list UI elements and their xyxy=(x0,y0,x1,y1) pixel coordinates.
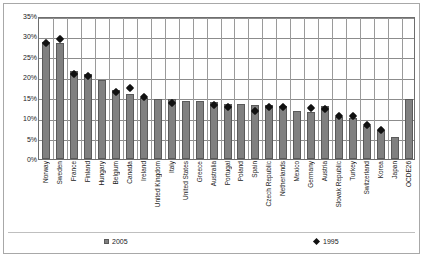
marker-germany xyxy=(307,104,315,112)
y-axis-tick-label: 20% xyxy=(7,74,37,81)
bar-hungary xyxy=(98,80,106,159)
plot-area xyxy=(38,17,415,160)
bar-sweden xyxy=(56,43,64,159)
x-axis-label-slovak-republic: Slovak Republic xyxy=(334,161,343,208)
x-axis-label-spain: Spain xyxy=(250,161,259,178)
bar-finland xyxy=(84,74,92,159)
bar-canada xyxy=(126,94,134,159)
bar-czech-republic xyxy=(265,105,273,159)
gridline-vertical xyxy=(290,18,291,159)
legend-square-icon xyxy=(104,239,109,244)
y-axis-tick-label: 35% xyxy=(7,13,37,20)
x-axis-label-mexico: Mexico xyxy=(292,161,301,182)
gridline-vertical xyxy=(332,18,333,159)
x-axis-label-czech-republic: Czech Republic xyxy=(264,161,273,207)
y-axis-tick-label: 15% xyxy=(7,95,37,102)
bar-austria xyxy=(321,106,329,159)
gridline-vertical xyxy=(109,18,110,159)
legend-label-2005: 2005 xyxy=(112,238,128,245)
gridline-vertical xyxy=(360,18,361,159)
bar-mexico xyxy=(293,111,301,159)
x-axis-label-korea: Korea xyxy=(376,161,385,178)
bar-germany xyxy=(307,112,315,159)
gridline-vertical xyxy=(234,18,235,159)
gridline-vertical xyxy=(221,18,222,159)
x-axis-label-greece: Greece xyxy=(195,161,204,182)
chart-frame: 0%5%10%15%20%25%30%35% NorwaySwedenFranc… xyxy=(3,3,420,254)
bar-united-states xyxy=(182,101,190,159)
x-axis-labels: NorwaySwedenFranceFinlandHungaryBelgiumC… xyxy=(38,161,415,229)
x-axis-label-belgium: Belgium xyxy=(111,161,120,184)
gridline-vertical xyxy=(53,18,54,159)
gridline-vertical xyxy=(81,18,82,159)
bar-italy xyxy=(168,99,176,159)
gridline-vertical xyxy=(304,18,305,159)
x-axis-label-united-states: United States xyxy=(181,161,190,200)
gridline-vertical xyxy=(123,18,124,159)
bar-ireland xyxy=(140,98,148,159)
legend-item-1995: 1995 xyxy=(314,236,339,246)
bar-turkey xyxy=(349,118,357,159)
x-axis-label-austria: Austria xyxy=(320,161,329,181)
bar-norway xyxy=(42,42,50,159)
legend-item-2005: 2005 xyxy=(104,236,128,246)
bar-netherlands xyxy=(279,106,287,159)
x-axis-label-hungary: Hungary xyxy=(97,161,106,186)
y-axis-tick-label: 25% xyxy=(7,54,37,61)
gridline-vertical xyxy=(165,18,166,159)
x-axis-label-ireland: Ireland xyxy=(139,161,148,181)
y-axis: 0%5%10%15%20%25%30%35% xyxy=(4,17,37,160)
y-axis-tick-label: 10% xyxy=(7,115,37,122)
gridline-vertical xyxy=(137,18,138,159)
x-axis-label-netherlands: Netherlands xyxy=(278,161,287,196)
gridline-vertical xyxy=(276,18,277,159)
x-axis-label-finland: Finland xyxy=(83,161,92,182)
x-axis-label-switzerland: Switzerland xyxy=(362,161,371,195)
gridline-vertical xyxy=(262,18,263,159)
legend-diamond-icon xyxy=(313,238,320,245)
bar-switzerland xyxy=(363,126,371,160)
x-axis-label-france: France xyxy=(69,161,78,181)
gridline-vertical xyxy=(346,18,347,159)
y-axis-tick-label: 5% xyxy=(7,136,37,143)
marker-canada xyxy=(126,84,134,92)
gridline-vertical xyxy=(388,18,389,159)
bar-france xyxy=(70,71,78,159)
gridline-vertical xyxy=(402,18,403,159)
x-axis-label-poland: Poland xyxy=(236,161,245,181)
bar-slovak-republic xyxy=(335,117,343,159)
x-axis-label-japan: Japan xyxy=(390,161,399,179)
bar-greece xyxy=(196,101,204,159)
bar-poland xyxy=(237,104,245,159)
x-axis-label-germany: Germany xyxy=(306,161,315,188)
x-axis-label-ocde26: OCDE26 xyxy=(404,161,413,187)
bar-korea xyxy=(377,130,385,159)
gridline-vertical xyxy=(179,18,180,159)
bar-belgium xyxy=(112,90,120,159)
bar-australia xyxy=(210,102,218,159)
gridline-vertical xyxy=(193,18,194,159)
x-axis-label-australia: Australia xyxy=(209,161,218,186)
y-axis-tick-label: 0% xyxy=(7,156,37,163)
gridline-vertical xyxy=(151,18,152,159)
gridline-vertical xyxy=(248,18,249,159)
x-axis-label-canada: Canada xyxy=(125,161,134,184)
gridline-vertical xyxy=(67,18,68,159)
x-axis-label-norway: Norway xyxy=(41,161,50,183)
gridline-vertical xyxy=(207,18,208,159)
chart-legend: 2005 1995 xyxy=(8,232,415,251)
bar-ocde26 xyxy=(405,99,413,159)
bar-portugal xyxy=(224,104,232,159)
gridline-vertical xyxy=(374,18,375,159)
x-axis-label-italy: Italy xyxy=(167,161,176,173)
x-axis-label-united-kingdom: United Kingdom xyxy=(153,161,162,207)
legend-label-1995: 1995 xyxy=(323,238,339,245)
bar-united-kingdom xyxy=(154,99,162,159)
x-axis-label-portugal: Portugal xyxy=(223,161,232,185)
x-axis-label-sweden: Sweden xyxy=(55,161,64,185)
gridline-vertical xyxy=(95,18,96,159)
gridline-vertical xyxy=(318,18,319,159)
x-axis-label-turkey: Turkey xyxy=(348,161,357,181)
bar-japan xyxy=(391,137,399,159)
y-axis-tick-label: 30% xyxy=(7,33,37,40)
